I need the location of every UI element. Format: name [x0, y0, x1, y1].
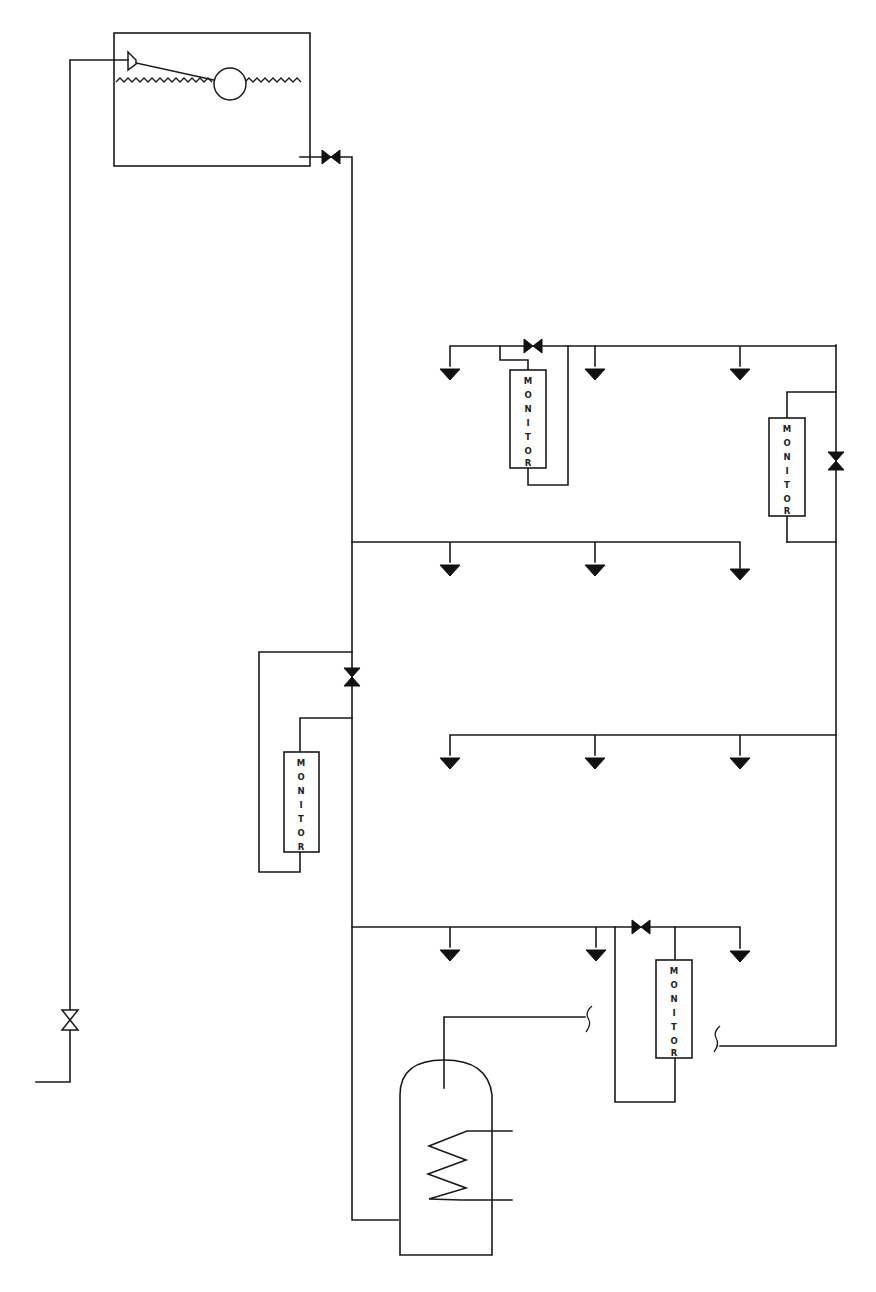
svg-text:N: N	[670, 994, 677, 1004]
tap-outlet-icon	[585, 758, 605, 769]
tap-outlet-icon	[585, 369, 605, 380]
svg-text:I: I	[672, 1008, 675, 1018]
tap-outlet-icon	[730, 758, 750, 769]
svg-text:O: O	[297, 828, 304, 838]
svg-text:T: T	[298, 814, 304, 824]
branch-lower-middle-pipe	[450, 735, 836, 755]
main-riser-pipe	[300, 157, 398, 1220]
svg-text:N: N	[297, 786, 304, 796]
cylinder-flow-pipe	[444, 1017, 585, 1088]
tap-outlet-icon	[586, 950, 606, 961]
svg-text:M: M	[670, 966, 678, 976]
tap-outlet-icon	[585, 565, 605, 576]
main-riser-valve-icon[interactable]	[344, 668, 360, 686]
svg-text:O: O	[524, 446, 531, 456]
svg-text:I: I	[299, 800, 302, 810]
svg-text:O: O	[670, 1036, 677, 1046]
hot-water-cylinder	[400, 1060, 512, 1255]
tap-outlet-icon	[440, 950, 460, 961]
tap-outlet-icon	[730, 951, 750, 962]
branch-upper-pipe	[450, 346, 836, 366]
lower-branch-valve-icon[interactable]	[632, 920, 650, 934]
monitor-2: M O N I T O R	[769, 418, 805, 516]
svg-text:M: M	[783, 424, 791, 434]
mains-inlet-pipe	[36, 60, 128, 1082]
heating-coil-icon	[428, 1131, 512, 1200]
monitor-label: M	[297, 758, 305, 768]
tap-outlet-icon	[440, 758, 460, 769]
svg-text:T: T	[784, 480, 790, 490]
svg-text:O: O	[670, 980, 677, 990]
branch-middle-pipe	[352, 542, 836, 568]
monitor-4: M O N I T O R	[656, 960, 692, 1058]
pipe-break-icon	[586, 1006, 592, 1032]
right-riser-valve-icon[interactable]	[828, 452, 844, 470]
svg-text:T: T	[525, 432, 531, 442]
svg-text:O: O	[783, 438, 790, 448]
svg-text:N: N	[524, 404, 531, 414]
svg-text:R: R	[671, 1048, 678, 1058]
branch-bottom-pipe	[352, 927, 740, 948]
svg-text:I: I	[526, 418, 529, 428]
monitor-1: M O N I T O R	[510, 370, 546, 468]
mains-inlet-valve-icon[interactable]	[62, 1010, 78, 1030]
svg-text:I: I	[785, 466, 788, 476]
svg-text:O: O	[297, 772, 304, 782]
tap-outlet-icon	[730, 369, 750, 380]
plumbing-diagram: M O N I T O R M O N I T O R M O N	[0, 0, 876, 1292]
upper-branch-valve-icon[interactable]	[524, 339, 542, 353]
svg-text:O: O	[783, 494, 790, 504]
cold-water-cistern	[114, 33, 310, 166]
svg-text:R: R	[525, 458, 532, 468]
svg-text:R: R	[784, 506, 791, 516]
svg-text:M: M	[524, 376, 532, 386]
svg-text:R: R	[298, 842, 305, 852]
svg-text:O: O	[524, 390, 531, 400]
ball-float-icon	[214, 68, 246, 100]
float-valve-icon	[128, 52, 136, 70]
pipe-break-icon	[714, 1026, 720, 1052]
svg-text:N: N	[783, 452, 790, 462]
monitor-3-feed	[300, 718, 352, 752]
cistern-outlet-valve-icon[interactable]	[322, 150, 340, 164]
svg-text:T: T	[671, 1022, 677, 1032]
tap-outlet-icon	[440, 565, 460, 576]
tap-outlet-icon	[730, 569, 750, 580]
tap-outlet-icon	[440, 369, 460, 380]
float-arm	[136, 63, 214, 80]
monitor-3: M O N I T O R	[284, 752, 319, 852]
